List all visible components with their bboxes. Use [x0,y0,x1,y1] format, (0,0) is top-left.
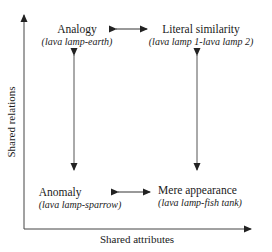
quadrant-example: (lava lamp 1-lava lamp 2) [149,36,253,48]
quadrant-literal-similarity: Literal similarity (lava lamp 1-lava lam… [149,23,253,48]
quadrant-example: (lava lamp-sparrow) [39,199,122,211]
x-axis-label: Shared attributes [100,233,174,245]
quadrant-title: Anomaly [39,186,122,199]
similarity-space-diagram: Analogy (lava lamp-earth) Literal simila… [0,0,272,252]
quadrant-title: Literal similarity [149,23,253,36]
quadrant-example: (lava lamp-earth) [42,36,113,48]
quadrant-title: Mere appearance [158,184,242,197]
quadrant-analogy: Analogy (lava lamp-earth) [42,23,113,48]
quadrant-anomaly: Anomaly (lava lamp-sparrow) [39,186,122,211]
y-axis-label: Shared relations [5,86,17,157]
quadrant-example: (lava lamp-fish tank) [158,197,242,209]
quadrant-title: Analogy [42,23,113,36]
quadrant-mere-appearance: Mere appearance (lava lamp-fish tank) [158,184,242,209]
